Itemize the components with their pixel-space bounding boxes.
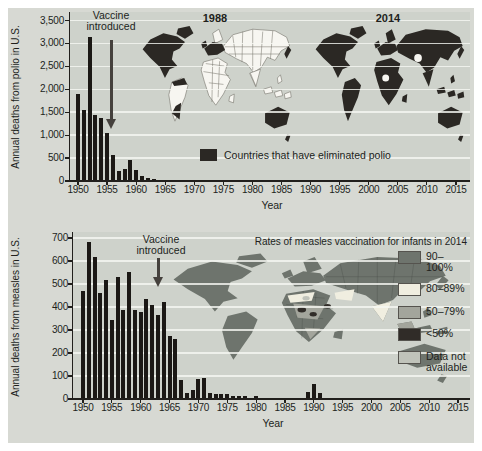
newguinea	[457, 92, 464, 99]
measles-y-axis-label: Annual deaths from measles in U.S.	[10, 237, 21, 397]
measles-arrow-line	[157, 258, 160, 278]
legend-label: <50%	[426, 328, 470, 339]
australia	[438, 107, 463, 129]
polio-legend-label: Countries that have eliminated polio	[224, 149, 391, 161]
newguinea	[284, 92, 291, 99]
namerica	[143, 33, 185, 78]
africa	[374, 58, 403, 105]
legend-swatch	[398, 251, 421, 264]
rate-below-50-west-africa	[298, 307, 307, 312]
polio-map-legend: Countries that have eliminated polio	[200, 149, 391, 161]
nz	[285, 134, 290, 142]
samerica	[222, 312, 258, 360]
asia	[396, 29, 462, 72]
legend-row: Data not available	[398, 351, 470, 374]
scand	[386, 29, 396, 43]
polio-remaining-nigeria	[382, 74, 389, 81]
phil	[277, 75, 282, 84]
measles-arrow-head-icon	[153, 277, 163, 287]
phil	[450, 75, 455, 84]
madag	[229, 94, 234, 103]
greenland	[177, 26, 194, 39]
indo2	[274, 90, 282, 97]
rate-below-50-horn-africa	[324, 304, 331, 308]
europe	[204, 42, 225, 56]
legend-row: 50–79%	[398, 306, 470, 319]
nz	[458, 134, 463, 142]
rate-below-50-central-africa	[310, 312, 317, 316]
indo2	[447, 90, 455, 97]
legend-row: <50%	[398, 328, 470, 341]
measles-x-axis-label: Year	[243, 417, 303, 429]
europe	[377, 42, 398, 56]
indo1	[264, 87, 273, 94]
rate-80-89-india	[372, 302, 392, 322]
polio-legend-swatch	[200, 149, 217, 161]
scand	[303, 257, 322, 273]
polio-vaccine-annotation: Vaccine introduced	[80, 10, 142, 33]
europe	[288, 271, 326, 286]
legend-label: 50–79%	[426, 306, 470, 317]
map-year-label-1988: 1988	[138, 12, 292, 24]
measles-map-title: Rates of measles vaccination for infants…	[238, 236, 467, 247]
polio-arrow-line	[110, 40, 113, 120]
indo1	[437, 87, 446, 94]
map-year-label-2014: 2014	[311, 12, 465, 24]
rate-80-89-arabia	[335, 289, 355, 301]
measles-vaccine-annotation: Vaccine introduced	[130, 234, 192, 257]
legend-swatch	[398, 328, 421, 341]
greenland	[236, 253, 267, 267]
measles-map-legend: 90–100%80–89%50–79%<50%Data not availabl…	[398, 251, 470, 383]
legend-swatch	[398, 351, 421, 364]
greenland	[350, 26, 367, 39]
namerica	[316, 33, 358, 78]
legend-label: 90–100%	[426, 251, 470, 274]
data-not-available-area	[303, 296, 310, 300]
asia	[223, 29, 289, 72]
legend-row: 90–100%	[398, 251, 470, 274]
world-map-1988-polio	[138, 22, 292, 150]
world-map-2014-polio	[311, 22, 465, 150]
samerica	[342, 78, 361, 121]
legend-label: Data not available	[426, 351, 470, 374]
legend-label: 80–89%	[426, 283, 470, 294]
namerica	[174, 262, 252, 312]
madag	[333, 329, 343, 339]
madag	[402, 94, 407, 103]
polio-arrow-head-icon	[106, 119, 116, 129]
legend-row: 80–89%	[398, 283, 470, 296]
polio-y-axis-label: Annual deaths from polio in U.S.	[10, 25, 21, 168]
vaccination-figure: 05001,0001,5002,0002,5003,0003,500195019…	[0, 0, 482, 451]
australia	[265, 107, 290, 129]
polio-x-axis-label: Year	[242, 199, 302, 211]
legend-swatch	[398, 306, 421, 319]
legend-swatch	[398, 283, 421, 296]
polio-remaining-pakistan-afghanistan	[414, 54, 422, 62]
scand	[213, 29, 223, 43]
india	[423, 69, 434, 87]
